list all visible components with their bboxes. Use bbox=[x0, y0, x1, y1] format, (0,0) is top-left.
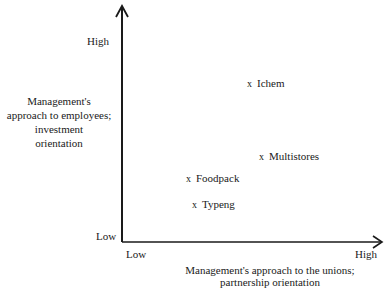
point-label: Multistores bbox=[269, 150, 319, 162]
y-axis-title-line: orientation bbox=[0, 136, 118, 150]
point-label: Foodpack bbox=[196, 172, 239, 184]
y-axis-title: Management's approach to employees; inve… bbox=[0, 94, 118, 150]
point-multistores: xMultistores bbox=[259, 150, 319, 162]
x-axis-title-line: partnership orientation bbox=[170, 276, 370, 288]
point-typeng: xTypeng bbox=[192, 198, 235, 210]
y-axis-title-line: investment bbox=[0, 122, 118, 136]
y-axis-title-line: approach to employees; bbox=[0, 108, 118, 122]
x-marker-icon: x bbox=[259, 151, 264, 162]
y-axis-low-label: Low bbox=[96, 230, 116, 242]
point-label: Ichem bbox=[257, 77, 284, 89]
x-marker-icon: x bbox=[247, 78, 252, 89]
x-marker-icon: x bbox=[192, 199, 197, 210]
point-label: Typeng bbox=[202, 198, 235, 210]
x-marker-icon: x bbox=[186, 173, 191, 184]
point-foodpack: xFoodpack bbox=[186, 172, 239, 184]
y-axis-title-line: Management's bbox=[0, 94, 118, 108]
y-axis-high-label: High bbox=[87, 35, 109, 47]
x-axis-title-line: Management's approach to the unions; bbox=[170, 264, 370, 276]
point-ichem: xIchem bbox=[247, 77, 284, 89]
x-axis-title: Management's approach to the unions; par… bbox=[170, 264, 370, 288]
x-axis-high-label: High bbox=[355, 248, 377, 260]
x-axis-low-label: Low bbox=[126, 248, 146, 260]
